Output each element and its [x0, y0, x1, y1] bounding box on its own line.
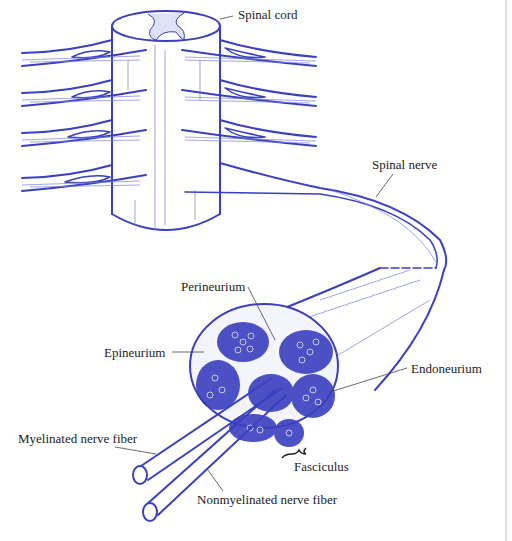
label-spinal-nerve: Spinal nerve [372, 158, 437, 171]
label-perineurium: Perineurium [181, 280, 245, 293]
label-spinal-cord: Spinal cord [238, 8, 298, 21]
fasciculus-brace [282, 448, 306, 458]
label-fasciculus: Fasciculus [294, 460, 349, 473]
nerve-roots [22, 40, 316, 191]
spinal-cord-drawing [112, 11, 220, 230]
label-myelinated-nerve-fiber: Myelinated nerve fiber [18, 432, 137, 445]
nerve-anatomy-diagram: Spinal cord Spinal nerve Perineurium Epi… [0, 0, 512, 541]
label-nonmyelinated-nerve-fiber: Nonmyelinated nerve fiber [197, 493, 337, 506]
label-epineurium: Epineurium [104, 346, 165, 359]
diagram-illustration [0, 0, 512, 541]
nerve-cross-section [190, 304, 338, 447]
label-endoneurium: Endoneurium [411, 362, 482, 375]
